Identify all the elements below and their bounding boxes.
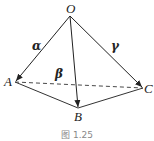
figure-caption: 图 1.25 [61,130,93,140]
vector-beta [70,16,78,107]
point-b-label: B [74,109,82,124]
gamma-label: γ [111,39,120,53]
point-c-label: C [144,81,153,96]
point-o-label: O [66,1,76,16]
tetrahedron-diagram: O A B C α β γ 图 1.25 [0,0,154,141]
edge-a-b [15,82,78,108]
beta-label: β [54,67,63,81]
point-a-label: A [3,74,12,89]
alpha-label: α [32,39,41,53]
vector-gamma [70,16,142,87]
edge-b-c [78,88,143,108]
edge-a-c [15,82,143,88]
